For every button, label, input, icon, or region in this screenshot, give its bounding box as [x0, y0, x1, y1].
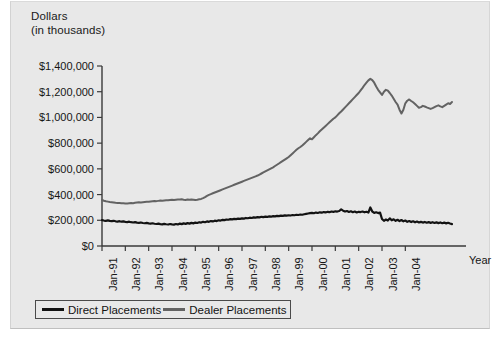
x-axis-tick-label: Jan-99	[293, 257, 305, 291]
x-axis-tick-label: Jan-00	[317, 257, 329, 291]
x-axis-tick-label: Jan-96	[223, 257, 235, 291]
chart-container: Dollars (in thousands) $1,400,000$1,200,…	[10, 1, 490, 329]
y-axis-tick-label: $600,000	[17, 163, 94, 175]
data-series-group	[102, 79, 452, 225]
x-axis-tick-label: Jan-93	[153, 257, 165, 291]
y-axis-tick-label: $800,000	[17, 137, 94, 149]
legend-label-direct: Direct Placements	[68, 304, 161, 316]
x-axis-tick-label: Jan-98	[270, 257, 282, 291]
x-axis-tick-label: Jan-04	[410, 257, 422, 291]
legend-item-dealer[interactable]: Dealer Placements	[161, 304, 286, 316]
y-axis-tick-label: $1,200,000	[17, 86, 94, 98]
y-axis-tick-label: $400,000	[17, 189, 94, 201]
legend-item-direct[interactable]: Direct Placements	[40, 304, 161, 316]
x-axis-tick-label: Jan-02	[363, 257, 375, 291]
x-axis-tick-label: Jan-01	[340, 257, 352, 291]
legend-swatch-dealer-icon	[163, 308, 185, 311]
x-axis-tick-label: Jan-95	[200, 257, 212, 291]
series-line-direct-placements	[102, 207, 452, 224]
x-axis-tick-label: Jan-91	[107, 257, 119, 291]
x-axis-tick-label: Jan-03	[387, 257, 399, 291]
y-axis-tick-label: $1,400,000	[17, 60, 94, 72]
x-axis-tick-label: Jan-92	[130, 257, 142, 291]
chart-legend: Direct Placements Dealer Placements	[35, 300, 291, 319]
y-axis-tick-label: $1,000,000	[17, 111, 94, 123]
legend-swatch-direct-icon	[42, 308, 64, 311]
x-axis-tick-label: Jan-97	[247, 257, 259, 291]
x-axis-tick-label: Jan-94	[177, 257, 189, 291]
x-axis-title: Year	[469, 254, 491, 266]
y-axis-tick-label: $0	[17, 240, 94, 252]
legend-label-dealer: Dealer Placements	[189, 304, 286, 316]
y-axis-tick-label: $200,000	[17, 214, 94, 226]
series-line-dealer-placements	[102, 79, 452, 204]
